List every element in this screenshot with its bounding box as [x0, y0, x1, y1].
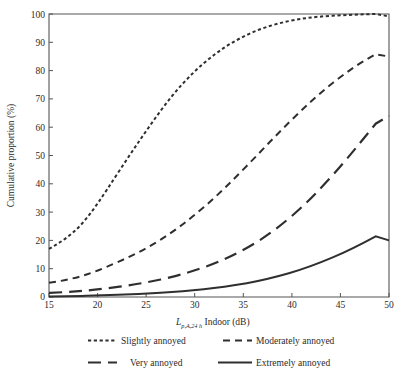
curve-slightly-annoyed: [49, 14, 389, 249]
legend-label-slightly-annoyed: Slightly annoyed: [121, 336, 186, 346]
x-tick-labels: 15 20 25 30 35 40 45 50: [44, 300, 394, 310]
y-tick-label: 40: [36, 179, 46, 189]
y-tick-marks: [49, 14, 53, 297]
y-tick-label: 30: [36, 208, 46, 218]
x-tick-label: 35: [239, 300, 249, 310]
chart-curves: [49, 14, 389, 296]
x-axis-title: Lp,A,24 h Indoor (dB): [175, 317, 250, 329]
svg-text:Lp,A,24 h Indoor (dB): Lp,A,24 h Indoor (dB): [175, 317, 250, 329]
curve-very-annoyed: [49, 116, 389, 293]
x-tick-label: 20: [93, 300, 103, 310]
chart-figure: 0 10 20 30 40 50 60 70 80 90 100 15 20: [0, 0, 411, 380]
legend-label-moderately-annoyed: Moderately annoyed: [256, 336, 335, 346]
x-tick-label: 45: [336, 300, 346, 310]
chart-legend: Slightly annoyed Moderately annoyed Very…: [88, 336, 335, 368]
y-tick-label: 80: [36, 66, 46, 76]
y-tick-label: 60: [36, 123, 46, 133]
y-tick-label: 50: [36, 151, 46, 161]
x-tick-label: 50: [384, 300, 394, 310]
y-tick-label: 10: [36, 264, 46, 274]
y-tick-label: 90: [36, 38, 46, 48]
x-tick-label: 15: [44, 300, 54, 310]
curve-extremely-annoyed: [49, 236, 389, 296]
y-tick-label: 100: [31, 10, 46, 20]
x-axis-title-rest: Indoor (dB): [202, 317, 250, 328]
x-tick-label: 25: [141, 300, 151, 310]
y-tick-labels: 0 10 20 30 40 50 60 70 80 90 100: [31, 10, 46, 303]
y-tick-label: 20: [36, 236, 46, 246]
legend-label-extremely-annoyed: Extremely annoyed: [256, 358, 330, 368]
legend-label-very-annoyed: Very annoyed: [130, 358, 183, 368]
x-tick-label: 30: [190, 300, 200, 310]
x-tick-label: 40: [287, 300, 297, 310]
cumulative-annoyance-chart: 0 10 20 30 40 50 60 70 80 90 100 15 20: [0, 0, 411, 380]
x-axis-title-subscript: p,A,24 h: [180, 322, 202, 329]
y-tick-label: 70: [36, 94, 46, 104]
y-axis-title: Cumulative proportion (%): [6, 104, 17, 207]
